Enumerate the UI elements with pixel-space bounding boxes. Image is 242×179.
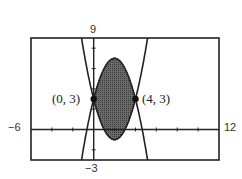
ymin-label: −3	[85, 163, 98, 174]
point-label-left: (0, 3)	[52, 92, 80, 105]
intersection-point-left	[91, 96, 97, 102]
point-label-right: (4, 3)	[142, 92, 170, 105]
xmax-label: 12	[224, 122, 236, 133]
graph-canvas	[0, 0, 242, 179]
xmin-label: −6	[8, 122, 21, 133]
ymax-label: 9	[90, 24, 96, 35]
intersection-point-right	[132, 96, 138, 102]
